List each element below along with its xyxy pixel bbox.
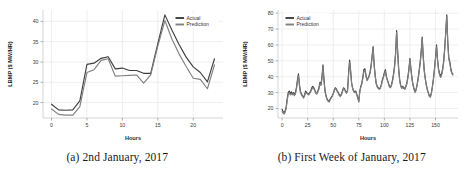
subfigure-b: 025507510012515020304050607080HoursLBMP … bbox=[235, 0, 469, 183]
legend-label-actual: Actual bbox=[187, 15, 201, 21]
y-axis-title: LBMP ($ MW/HR) bbox=[7, 41, 13, 86]
y-tick-label: 20 bbox=[267, 105, 273, 111]
legend-label-actual: Actual bbox=[296, 15, 310, 21]
plot-b-wrapper: 025507510012515020304050607080HoursLBMP … bbox=[238, 0, 466, 150]
y-tick-label: 70 bbox=[267, 26, 273, 32]
caption-b: (b) First Week of January, 2017 bbox=[278, 151, 426, 163]
x-tick-label: 100 bbox=[380, 122, 389, 128]
x-axis-title: Hours bbox=[360, 135, 376, 141]
y-tick-label: 40 bbox=[33, 18, 39, 24]
legend-label-prediction: Prediction bbox=[296, 21, 318, 27]
x-tick-label: 125 bbox=[405, 122, 414, 128]
y-tick-label: 25 bbox=[33, 79, 39, 85]
chart-a: 051015202025303540HoursLBMP ($ MW/HR)Act… bbox=[3, 0, 231, 150]
y-axis-title: LBMP ($ MW/HR) bbox=[242, 41, 248, 86]
y-tick-label: 30 bbox=[267, 90, 273, 96]
x-tick-label: 15 bbox=[155, 122, 161, 128]
x-tick-label: 150 bbox=[431, 122, 440, 128]
legend-label-prediction: Prediction bbox=[187, 21, 209, 27]
y-tick-label: 20 bbox=[33, 100, 39, 106]
x-tick-label: 0 bbox=[280, 122, 283, 128]
x-tick-label: 0 bbox=[50, 122, 53, 128]
y-tick-label: 35 bbox=[33, 39, 39, 45]
x-tick-label: 75 bbox=[356, 122, 362, 128]
y-tick-label: 30 bbox=[33, 59, 39, 65]
caption-a: (a) 2nd January, 2017 bbox=[66, 151, 168, 163]
x-tick-label: 50 bbox=[330, 122, 336, 128]
figure-container: 051015202025303540HoursLBMP ($ MW/HR)Act… bbox=[0, 0, 469, 183]
x-axis-title: Hours bbox=[125, 135, 141, 141]
y-tick-label: 60 bbox=[267, 42, 273, 48]
x-tick-label: 25 bbox=[305, 122, 311, 128]
plot-a-wrapper: 051015202025303540HoursLBMP ($ MW/HR)Act… bbox=[3, 0, 231, 150]
y-tick-label: 40 bbox=[267, 74, 273, 80]
subfigure-a: 051015202025303540HoursLBMP ($ MW/HR)Act… bbox=[0, 0, 235, 183]
x-tick-label: 20 bbox=[191, 122, 197, 128]
chart-b: 025507510012515020304050607080HoursLBMP … bbox=[238, 0, 466, 150]
y-tick-label: 50 bbox=[267, 58, 273, 64]
y-tick-label: 80 bbox=[267, 10, 273, 16]
x-tick-label: 10 bbox=[120, 122, 126, 128]
x-tick-label: 5 bbox=[86, 122, 89, 128]
